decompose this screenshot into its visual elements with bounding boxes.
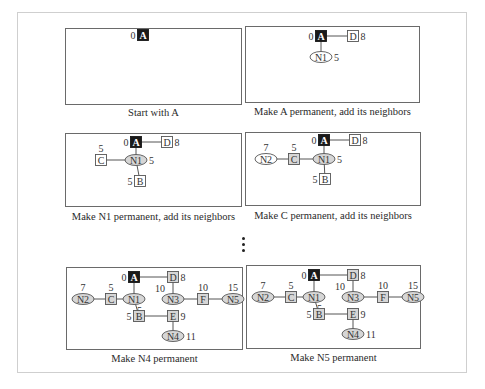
distance-label: 0 [124,137,129,148]
distance-label: 5 [334,52,339,63]
node-e: E9 [348,309,366,320]
node-b: B5 [128,176,146,187]
node-d: D8 [168,272,186,283]
svg-text:D: D [351,135,358,146]
svg-text:A: A [130,272,138,283]
caption-n4-permanent: Make N4 permanent [66,353,243,364]
node-n2: N27 [255,142,277,165]
graph-canvas: A0D8N15 [246,27,419,102]
distance-label: 5 [127,311,132,322]
distance-label: 8 [181,272,186,283]
distance-label: 8 [361,31,366,42]
svg-text:N3: N3 [167,294,179,305]
node-b: B5 [127,311,145,322]
svg-text:N1: N1 [318,154,330,165]
node-a: A0 [122,272,140,283]
node-d: D8 [350,135,368,146]
distance-label: 7 [264,142,269,153]
caption-n5-permanent: Make N5 permanent [246,352,421,363]
node-b: B5 [313,174,331,185]
svg-text:B: B [322,174,329,185]
svg-text:D: D [349,270,356,281]
node-n5: N515 [402,280,424,303]
distance-label: 0 [309,31,314,42]
distance-label: 5 [307,309,312,320]
node-a: A0 [302,270,320,281]
panel-c-permanent: A0D8N15C5N27B5 [245,132,421,206]
distance-label: 9 [181,311,186,322]
svg-text:N4: N4 [347,329,359,340]
panel-n5-permanent: A0D8N15C5N27N310F10N515B5E9N411 [246,265,421,349]
svg-text:N1: N1 [315,52,327,63]
distance-label: 15 [408,280,418,291]
svg-text:B: B [136,311,143,322]
graph-canvas: A0 [66,29,241,104]
svg-text:N1: N1 [308,292,320,303]
svg-text:N5: N5 [407,292,419,303]
node-c: C5 [286,280,297,303]
svg-text:B: B [137,176,144,187]
distance-label: 5 [289,280,294,291]
svg-text:N1: N1 [130,155,142,166]
svg-text:N5: N5 [227,294,239,305]
distance-label: 5 [337,154,342,165]
distance-label: 11 [186,331,196,342]
distance-label: 5 [292,142,297,153]
node-n4: N411 [342,329,376,340]
distance-label: 10 [378,280,388,291]
caption-n1-permanent: Make N1 permanent, add its neighbors [62,211,245,222]
graph-canvas: A0D8N15C5N27N310F10N515B5E9N411 [67,268,242,349]
svg-text:C: C [108,294,115,305]
svg-text:D: D [169,272,176,283]
distance-label: 15 [228,282,238,293]
node-f: F10 [378,280,389,303]
node-c: C5 [106,282,117,305]
svg-text:N3: N3 [347,292,359,303]
node-e: E9 [168,311,186,322]
node-a: A0 [131,30,149,41]
node-c: C5 [96,143,107,166]
svg-text:F: F [200,294,206,305]
distance-label: 0 [312,135,317,146]
node-b: B5 [307,309,325,320]
graph-canvas: A0D8N15C5N27N310F10N515B5E9N411 [247,266,420,348]
panel-start-with-a: A0 [65,28,242,105]
svg-text:N2: N2 [260,154,272,165]
graph-canvas: A0D8N15C5B5 [66,134,241,206]
svg-text:C: C [288,292,295,303]
node-n3: N310 [335,281,364,303]
node-n1: N15 [313,154,342,165]
distance-label: 9 [361,309,366,320]
distance-label: 11 [366,329,376,340]
distance-label: 8 [361,270,366,281]
distance-label: 5 [99,143,104,154]
svg-text:E: E [350,309,356,320]
distance-label: 5 [109,282,114,293]
node-a: A0 [309,31,327,42]
distance-label: 8 [175,137,180,148]
node-a: A0 [312,135,330,146]
node-d: D8 [348,270,366,281]
node-f: F10 [198,282,209,305]
caption-start-with-a: Start with A [65,107,242,118]
panel-n1-permanent: A0D8N15C5B5 [65,133,242,207]
node-n1: N15 [310,52,339,63]
svg-text:D: D [163,137,170,148]
caption-c-permanent: Make C permanent, add its neighbors [245,210,421,221]
svg-text:A: A [132,137,140,148]
distance-label: 5 [149,155,154,166]
node-n4: N411 [162,331,196,342]
svg-text:N1: N1 [128,294,140,305]
svg-text:N2: N2 [257,292,269,303]
distance-label: 10 [198,282,208,293]
distance-label: 0 [122,272,127,283]
svg-text:A: A [139,30,147,41]
continuation-ellipsis [242,237,246,255]
node-n2: N27 [252,280,274,303]
distance-label: 10 [335,281,345,292]
svg-text:F: F [380,292,386,303]
node-c: C5 [289,142,300,165]
caption-a-permanent: Make A permanent, add its neighbors [245,106,420,117]
distance-label: 8 [363,135,368,146]
node-n1: N15 [125,155,154,166]
